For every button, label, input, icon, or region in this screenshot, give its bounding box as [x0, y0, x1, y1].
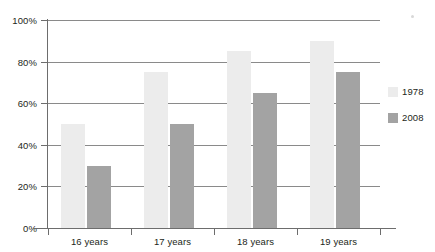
bar-2008-18-years: [253, 93, 277, 228]
x-axis-tick: [48, 228, 49, 235]
y-axis-label: 20%: [0, 181, 37, 192]
bar-2008-16-years: [87, 166, 111, 228]
x-axis-label-18-years: 18 years: [214, 236, 297, 247]
y-axis-label: 0%: [0, 223, 37, 234]
x-axis-label-16-years: 16 years: [48, 236, 131, 247]
x-axis-label-17-years: 17 years: [131, 236, 214, 247]
bar-1978-19-years: [310, 41, 334, 228]
x-axis-tick: [214, 228, 215, 235]
legend-item-2008: 2008: [388, 109, 424, 126]
y-axis-label: 100%: [0, 15, 37, 26]
y-axis-label: 40%: [0, 139, 37, 150]
legend-label-2008: 2008: [402, 112, 424, 123]
bar-1978-16-years: [61, 124, 85, 228]
x-axis-label-19-years: 19 years: [297, 236, 380, 247]
scan-artifact-speck: [411, 15, 414, 18]
x-axis-tick: [131, 228, 132, 235]
plot-area: [48, 20, 380, 228]
y-axis-label: 60%: [0, 98, 37, 109]
y-axis-label: 80%: [0, 56, 37, 67]
bar-chart: 0%20%40%60%80%100% 16 years17 years18 ye…: [0, 0, 435, 252]
legend-item-1978: 1978: [388, 83, 424, 100]
legend-swatch-1978: [388, 87, 398, 97]
bar-1978-18-years: [227, 51, 251, 228]
x-axis-tick: [380, 228, 381, 235]
bar-2008-17-years: [170, 124, 194, 228]
legend-swatch-2008: [388, 113, 398, 123]
bar-2008-19-years: [336, 72, 360, 228]
bar-1978-17-years: [144, 72, 168, 228]
x-axis-tick: [297, 228, 298, 235]
chart-legend: 1978 2008: [388, 83, 424, 135]
legend-label-1978: 1978: [402, 86, 424, 97]
